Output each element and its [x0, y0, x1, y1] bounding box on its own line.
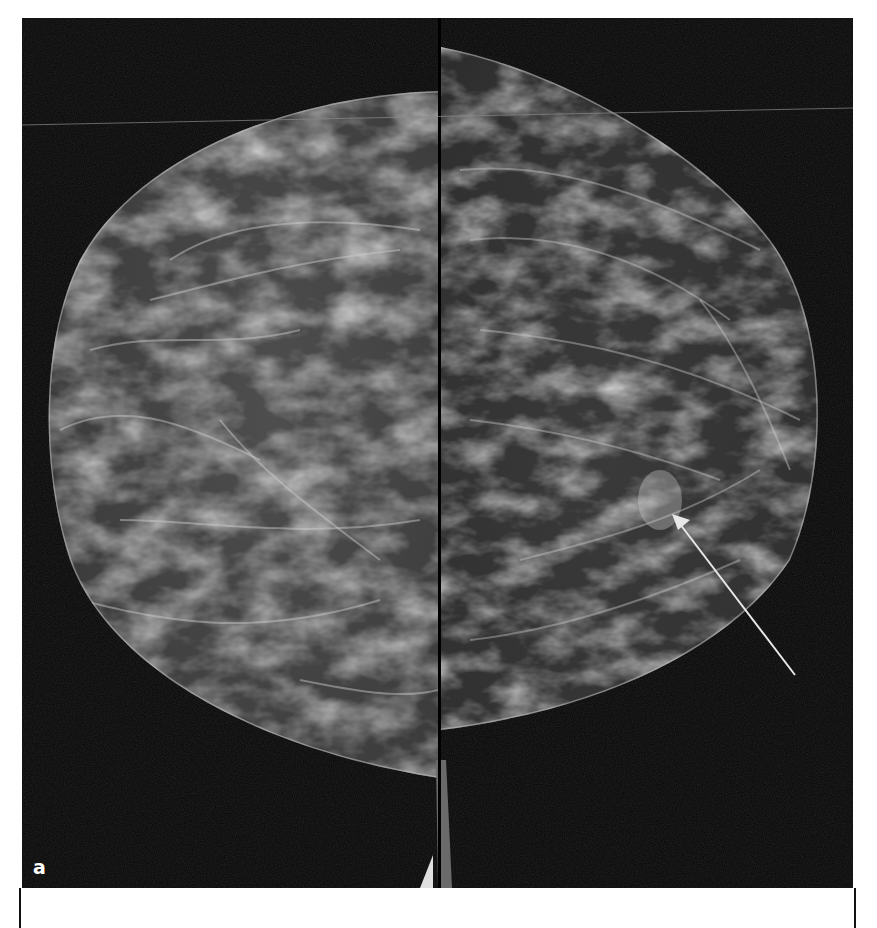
- panel-label: a: [33, 858, 46, 877]
- divider: [438, 18, 441, 888]
- caption-box: [19, 888, 856, 928]
- mammogram-figure: a: [22, 18, 853, 888]
- mammogram-image: [22, 18, 853, 888]
